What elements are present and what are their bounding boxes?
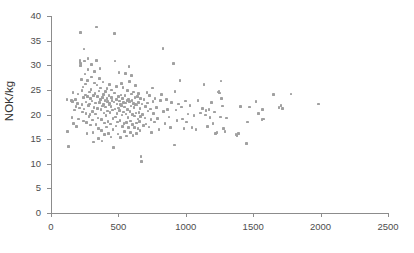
scatter-point — [125, 135, 128, 138]
scatter-point — [112, 146, 115, 149]
scatter-point — [152, 112, 155, 115]
scatter-point — [278, 106, 281, 109]
scatter-point — [116, 103, 119, 106]
scatter-point — [145, 123, 148, 126]
scatter-point — [99, 87, 102, 90]
scatter-point — [97, 127, 100, 130]
scatter-point — [133, 106, 136, 109]
scatter-point — [141, 113, 144, 116]
scatter-point — [97, 117, 100, 120]
scatter-point — [106, 87, 109, 90]
scatter-point — [140, 160, 143, 163]
scatter-point — [71, 116, 74, 119]
scatter-point — [255, 100, 258, 103]
scatter-point — [77, 93, 80, 96]
scatter-point — [120, 94, 123, 97]
scatter-point — [212, 122, 215, 125]
scatter-point — [125, 113, 128, 116]
scatter-point — [150, 118, 153, 121]
scatter-point — [257, 112, 260, 115]
scatter-point — [137, 101, 140, 104]
scatter-point — [90, 76, 93, 79]
scatter-point — [110, 89, 113, 92]
scatter-point — [109, 111, 112, 114]
scatter-point — [133, 115, 136, 118]
scatter-point — [77, 118, 80, 121]
scatter-point — [79, 59, 82, 62]
scatter-point — [191, 126, 194, 129]
scatter-point — [94, 113, 97, 116]
scatter-point — [201, 107, 204, 110]
scatter-point — [210, 101, 213, 104]
scatter-point — [118, 100, 121, 103]
scatter-point — [124, 102, 127, 105]
scatter-point — [85, 101, 88, 104]
scatter-point — [166, 108, 169, 111]
scatter-point — [237, 132, 240, 135]
scatter-point — [113, 101, 116, 104]
scatter-point — [112, 128, 115, 131]
scatter-point — [75, 105, 78, 108]
scatter-point — [317, 103, 320, 106]
scatter-point — [183, 127, 186, 130]
scatter-point — [132, 91, 135, 94]
scatter-point — [170, 101, 173, 104]
scatter-point — [281, 107, 284, 110]
scatter-point — [173, 144, 176, 147]
scatter-point — [146, 102, 149, 105]
scatter-point — [117, 133, 120, 136]
scatter-point — [127, 116, 130, 119]
scatter-point — [121, 97, 124, 100]
scatter-point — [105, 114, 108, 117]
scatter-point — [74, 98, 77, 101]
scatter-point — [98, 77, 101, 80]
scatter-point — [195, 128, 198, 131]
scatter-point — [87, 68, 90, 71]
scatter-point — [181, 118, 184, 121]
scatter-point — [123, 130, 126, 133]
scatter-point — [209, 116, 212, 119]
scatter-point — [93, 106, 96, 109]
scatter-point — [86, 95, 89, 98]
scatter-point — [224, 130, 227, 133]
scatter-point — [107, 132, 110, 135]
scatter-point — [168, 116, 171, 119]
scatter-point — [75, 125, 78, 128]
scatter-point — [116, 112, 119, 115]
scatter-point — [119, 119, 122, 122]
scatter-point — [162, 110, 165, 113]
scatter-point — [272, 93, 275, 96]
scatter-point — [218, 92, 221, 95]
scatter-point — [152, 100, 155, 103]
scatter-point — [103, 122, 106, 125]
scatter-point — [139, 107, 142, 110]
scatter-point — [76, 102, 79, 105]
scatter-point — [73, 109, 76, 112]
scatter-point — [220, 97, 223, 100]
scatter-point — [160, 93, 163, 96]
scatter-point — [133, 126, 136, 129]
scatter-point — [105, 126, 108, 129]
scatter-point — [135, 132, 138, 135]
scatter-point — [93, 70, 96, 73]
scatter-point — [153, 121, 156, 124]
scatter-point — [72, 91, 75, 94]
scatter-point — [85, 121, 88, 124]
scatter-point — [175, 109, 178, 112]
scatter-point — [104, 106, 107, 109]
scatter-point — [81, 111, 84, 114]
scatter-point — [89, 124, 92, 127]
scatter-point — [83, 108, 86, 111]
scatter-point — [138, 111, 141, 114]
scatter-point — [155, 106, 158, 109]
scatter-point — [148, 94, 151, 97]
scatter-point — [118, 71, 121, 74]
scatter-point — [95, 123, 98, 126]
scatter-point — [103, 133, 106, 136]
scatter-point — [79, 31, 82, 34]
scatter-point — [102, 81, 105, 84]
scatter-point — [150, 131, 153, 134]
scatter-point — [93, 82, 96, 85]
scatter-point — [90, 88, 93, 91]
scatter-point — [100, 108, 103, 111]
